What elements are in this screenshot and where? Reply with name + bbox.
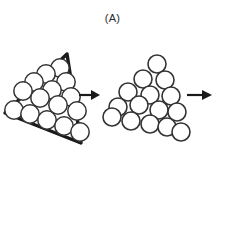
ball [21, 105, 39, 123]
ball [141, 115, 159, 133]
arrow-1-head [91, 90, 100, 100]
racked-balls-group: balls in triangular rack [5, 54, 89, 143]
ball [38, 111, 56, 129]
ball [68, 102, 86, 120]
scattered-balls-group: loose cluster after rack removal [103, 55, 190, 141]
ball [103, 108, 121, 126]
diagram-canvas: balls in triangular rack loose cluster [0, 0, 225, 250]
arrow-2-head [202, 90, 212, 100]
ball [130, 96, 148, 114]
arrow-1 [79, 90, 100, 100]
ball [122, 112, 140, 130]
figure-panel: (A) balls in trian [0, 0, 225, 250]
ball [148, 55, 166, 73]
arrow-2 [187, 90, 212, 100]
ball [31, 89, 49, 107]
ball [14, 82, 32, 100]
ball [172, 123, 190, 141]
ball [71, 123, 89, 141]
